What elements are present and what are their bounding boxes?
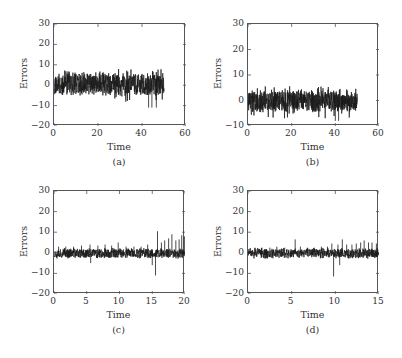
x-axis-label: Time: [283, 141, 343, 152]
x-tick-label: 40: [322, 128, 346, 138]
y-tick-label: 20: [26, 38, 50, 48]
x-tick-label: 0: [235, 128, 259, 138]
x-tick-label: 60: [173, 128, 197, 138]
x-tick-label: 20: [85, 128, 109, 138]
x-axis-label: Time: [89, 309, 149, 320]
y-tick-label: −10: [220, 267, 244, 277]
y-tick-label: 0: [26, 79, 50, 89]
y-tick-label: 0: [26, 247, 50, 257]
plot-area: [53, 23, 185, 125]
y-tick-label: 20: [220, 206, 244, 216]
x-tick-label: 0: [41, 128, 65, 138]
y-tick-label: −10: [26, 100, 50, 110]
x-tick-label: 20: [172, 296, 196, 306]
x-tick-label: 0: [41, 296, 65, 306]
y-tick-label: 30: [26, 185, 50, 195]
plot-area: [247, 23, 378, 125]
x-tick-label: 60: [366, 128, 390, 138]
y-axis-label: Errors: [212, 54, 223, 94]
error-signal-trace: [248, 24, 379, 126]
error-signal-trace: [54, 24, 186, 126]
y-tick-label: 10: [220, 226, 244, 236]
plot-area: [53, 190, 184, 293]
x-tick-label: 0: [235, 296, 259, 306]
y-tick-label: 10: [26, 59, 50, 69]
y-tick-label: 30: [220, 18, 244, 28]
y-tick-label: 10: [26, 226, 50, 236]
x-tick-label: 10: [322, 296, 346, 306]
x-tick-label: 40: [129, 128, 153, 138]
y-tick-label: 30: [26, 18, 50, 28]
subplot-caption: (d): [283, 324, 343, 335]
y-tick-label: 20: [220, 44, 244, 54]
y-tick-label: −10: [26, 267, 50, 277]
y-axis-label: Errors: [212, 221, 223, 261]
plot-area: [247, 190, 378, 293]
y-tick-label: 30: [220, 185, 244, 195]
y-axis-label: Errors: [18, 54, 29, 94]
x-tick-label: 5: [279, 296, 303, 306]
error-signal-trace: [248, 191, 379, 294]
y-tick-label: 0: [220, 247, 244, 257]
subplot-caption: (c): [89, 324, 149, 335]
x-tick-label: 5: [74, 296, 98, 306]
x-tick-label: 15: [366, 296, 390, 306]
y-axis-label: Errors: [18, 221, 29, 261]
x-tick-label: 10: [107, 296, 131, 306]
x-tick-label: 15: [139, 296, 163, 306]
x-axis-label: Time: [283, 309, 343, 320]
y-tick-label: 20: [26, 206, 50, 216]
x-axis-label: Time: [89, 141, 149, 152]
error-signal-trace: [54, 191, 185, 294]
y-tick-label: 0: [220, 95, 244, 105]
x-tick-label: 20: [279, 128, 303, 138]
y-tick-label: 10: [220, 69, 244, 79]
subplot-caption: (a): [89, 156, 149, 167]
subplot-caption: (b): [283, 156, 343, 167]
